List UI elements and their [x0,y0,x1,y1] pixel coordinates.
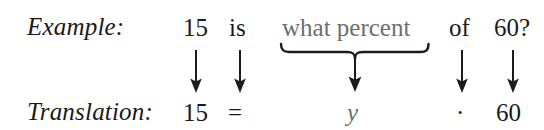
example-term-number: 15 [183,15,208,40]
example-row-label: Example: [27,14,124,39]
example-term-base: 60? [494,15,530,40]
translation-term-equals: = [228,100,242,125]
translation-term-variable: y [347,100,358,125]
percent-translation-figure: Example: 15 is what percent of 60? Trans… [0,0,544,130]
down-arrow-icon-number [190,50,202,93]
example-term-unknown-phrase: what percent [282,15,410,40]
translation-term-base: 60 [496,100,521,125]
down-arrow-icon-base [507,50,519,93]
underbrace-icon-unknown-phrase [281,44,429,59]
example-term-preposition: of [449,15,470,40]
translation-term-times: · [456,100,464,125]
translation-row-label: Translation: [27,99,153,124]
down-arrow-icon-preposition [456,50,468,93]
down-arrow-icon-unknown-phrase [349,58,362,92]
down-arrow-icon-verb [234,50,246,93]
translation-term-number: 15 [183,100,208,125]
example-term-verb: is [229,15,246,40]
